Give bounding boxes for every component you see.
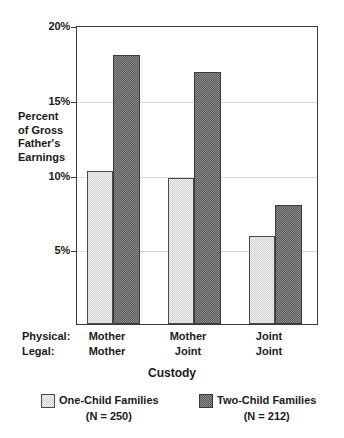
y-axis-title-line: of Gross	[18, 124, 76, 138]
y-tick-label: 10%	[36, 170, 70, 182]
x-label-physical-3: Joint	[238, 330, 300, 342]
y-axis-title: Percent of Gross Father's Earnings	[18, 110, 76, 164]
x-axis-row-legal: Legal: Mother Joint Joint	[0, 345, 344, 360]
legend-swatch-one-child	[41, 394, 55, 408]
chart-legend: One-Child Families (N = 250) Two-Child F…	[0, 392, 344, 432]
y-tick-label: 5%	[36, 244, 70, 256]
y-tick-label: 15%	[36, 95, 70, 107]
x-label-legal-2: Joint	[157, 345, 219, 357]
x-axis-row-key-legal: Legal:	[22, 345, 80, 357]
legend-swatch-two-child	[199, 394, 213, 408]
bar-one-child-mother-joint[interactable]	[168, 178, 194, 324]
x-label-legal-1: Mother	[76, 345, 138, 357]
bar-one-child-mother-mother[interactable]	[87, 171, 113, 324]
bar-two-child-mother-joint[interactable]	[194, 72, 221, 324]
y-tick-mark	[71, 177, 77, 178]
legend-label-one-child: One-Child Families (N = 250)	[59, 392, 159, 424]
legend-label-n: (N = 212)	[217, 408, 316, 424]
x-axis-row-physical: Physical: Mother Mother Joint	[0, 330, 344, 345]
bar-two-child-joint-joint[interactable]	[275, 205, 302, 324]
x-label-physical-2: Mother	[157, 330, 219, 342]
legend-label-two-child: Two-Child Families (N = 212)	[217, 392, 316, 424]
y-tick-mark	[71, 102, 77, 103]
bar-two-child-mother-mother[interactable]	[113, 55, 140, 324]
y-axis-title-line: Father's	[18, 137, 76, 151]
y-tick-mark	[71, 251, 77, 252]
plot-area	[76, 26, 318, 325]
x-axis-title: Custody	[0, 366, 344, 380]
x-label-legal-3: Joint	[238, 345, 300, 357]
legend-label-n: (N = 250)	[59, 408, 159, 424]
x-label-physical-1: Mother	[76, 330, 138, 342]
bar-chart-figure: 20% 15% 10% 5% Percent of Gross Father's…	[0, 0, 344, 438]
y-tick-label: 20%	[36, 20, 70, 32]
legend-label-text: One-Child Families	[59, 394, 159, 406]
x-axis-row-key-physical: Physical:	[22, 330, 80, 342]
y-axis-title-line: Percent	[18, 110, 76, 124]
bar-one-child-joint-joint[interactable]	[249, 236, 275, 324]
y-axis-title-line: Earnings	[18, 151, 76, 165]
y-tick-mark	[71, 27, 77, 28]
legend-label-text: Two-Child Families	[217, 394, 316, 406]
